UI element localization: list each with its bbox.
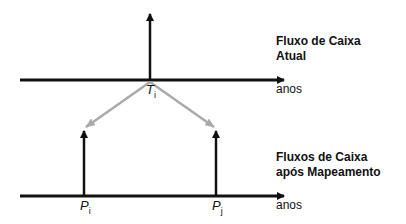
label-main: P (80, 198, 89, 213)
current-cash-flow-title: Fluxo de Caixa Atual (276, 34, 361, 64)
point-p-j-label: Pj (212, 198, 223, 216)
label-main: P (212, 198, 221, 213)
label-sub: j (221, 206, 223, 216)
point-t-i-label: Ti (146, 82, 156, 100)
title-line-2: Atual (276, 49, 361, 64)
title-line-1: Fluxos de Caixa (276, 150, 381, 165)
mapping-arrow-left (86, 82, 150, 127)
bottom-axis-label: anos (276, 198, 302, 212)
top-axis-label: anos (276, 82, 302, 96)
title-line-2: após Mapeamento (276, 165, 381, 180)
label-main: T (146, 82, 154, 97)
title-line-1: Fluxo de Caixa (276, 34, 361, 49)
mapping-arrow-right (150, 82, 214, 127)
mapped-cash-flow-title: Fluxos de Caixa após Mapeamento (276, 150, 381, 180)
cash-flow-mapping-diagram: Fluxo de Caixa Atual anos Ti Fluxos de C… (0, 0, 406, 224)
point-p-i-label: Pi (80, 198, 91, 216)
label-sub: i (154, 90, 156, 100)
label-sub: i (89, 206, 91, 216)
